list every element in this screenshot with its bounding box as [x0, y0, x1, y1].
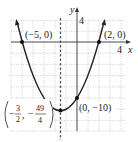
point-neg5-0	[20, 40, 24, 44]
label-vertex: − 3 2 , − 49 4	[3, 99, 53, 130]
label-0-neg10: (0, −10)	[79, 102, 111, 114]
curve-arrow-left-icon	[15, 19, 20, 26]
curve-arrow-right-icon	[102, 19, 107, 26]
svg-text:2: 2	[16, 115, 20, 124]
y-tick-4: 4	[79, 15, 84, 26]
svg-text:−: −	[28, 108, 34, 119]
label-2-0: (2, 0)	[104, 29, 126, 41]
svg-text:49: 49	[36, 104, 44, 113]
x-tick-4: 4	[117, 44, 122, 55]
parabola-graph: (−5, 0) (2, 0) (0, −10) x y 4 4 − 3 2 , …	[0, 0, 138, 142]
svg-text:,: ,	[22, 109, 25, 120]
point-vertex	[59, 109, 63, 113]
svg-text:−: −	[9, 108, 15, 119]
point-2-0	[97, 40, 101, 44]
svg-text:4: 4	[38, 116, 42, 125]
y-axis-arrow-icon	[75, 7, 79, 12]
label-neg5-0: (−5, 0)	[25, 29, 52, 41]
y-axis-label: y	[69, 4, 75, 15]
svg-text:3: 3	[16, 104, 20, 113]
point-0-neg10	[75, 96, 79, 100]
x-axis-label: x	[127, 44, 133, 55]
